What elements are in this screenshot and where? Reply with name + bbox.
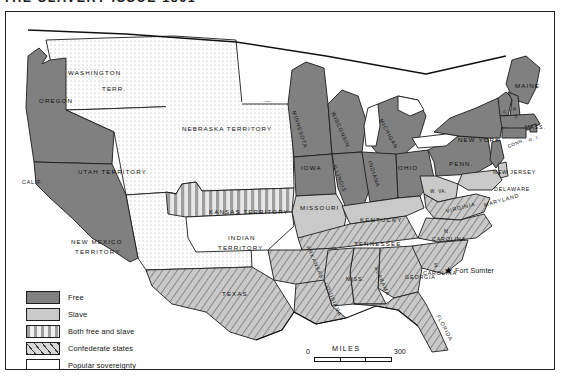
region-nebraska-fill <box>166 102 294 192</box>
fort-sumter-label: Fort Sumter <box>455 267 494 274</box>
legend-swatch-dotted <box>26 359 60 370</box>
legend-row-4: Popular sovereignty <box>26 357 136 370</box>
legend-label: Slave <box>68 310 87 319</box>
region-iowa <box>294 154 336 196</box>
scale-unit-label: MILES <box>332 344 360 353</box>
legend-label: Free <box>68 293 84 302</box>
scale-min-label: 0 <box>306 348 310 355</box>
region-washington-territory <box>46 36 242 110</box>
scale-max-label: 300 <box>394 348 406 355</box>
fort-sumter-star-icon: ★ <box>444 266 453 275</box>
legend-swatch-vertical-stripes <box>26 325 60 338</box>
region-minnesota <box>288 62 332 157</box>
region-georgia <box>378 246 422 298</box>
legend-row-3: Confederate states <box>26 340 136 357</box>
region-rhodeisland <box>530 124 537 132</box>
legend-row-0: Free <box>26 289 136 306</box>
legend-swatch-solid-dark <box>26 291 60 304</box>
legend-swatch-solid-light <box>26 308 60 321</box>
region-connecticut <box>502 128 526 138</box>
legend-row-1: Slave <box>26 306 136 323</box>
region-indian-territory <box>186 212 294 252</box>
map-legend: FreeSlaveBoth free and slaveConfederate … <box>26 289 136 370</box>
lake-michigan <box>364 104 380 146</box>
legend-label: Both free and slave <box>68 327 135 336</box>
region-texas <box>146 267 294 340</box>
region-wisconsin <box>328 90 366 154</box>
legend-label: Popular sovereignty <box>68 361 136 370</box>
page-title: THE SLAVERY ISSUE 1861 <box>3 0 196 5</box>
legend-label: Confederate states <box>68 344 133 353</box>
legend-row-2: Both free and slave <box>26 323 136 340</box>
region-newyork <box>434 98 504 138</box>
legend-swatch-diagonal-hatch <box>26 342 60 355</box>
scale-bar <box>314 357 392 362</box>
map-frame: WASHINGTONTERR.OREGONCALIF.UTAH TERRITOR… <box>5 11 555 370</box>
map-page: THE SLAVERY ISSUE 1861 <box>0 0 561 377</box>
